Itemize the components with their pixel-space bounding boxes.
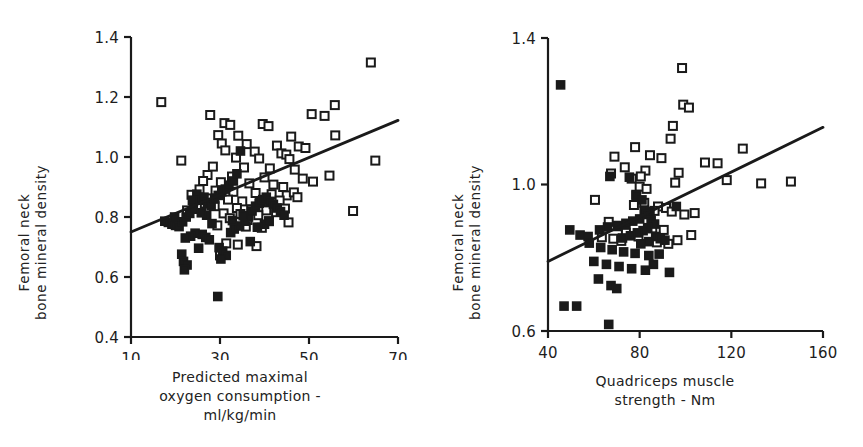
data-point-open	[221, 146, 229, 154]
y-tick-label: 0.4	[95, 329, 119, 347]
data-point-filled	[208, 220, 216, 228]
data-point-open	[609, 235, 617, 243]
y-tick-label: 0.6	[512, 323, 536, 341]
x-axis-label-left-line1: Predicted maximal	[90, 368, 390, 387]
data-point-filled	[573, 302, 581, 310]
data-point-filled	[665, 268, 673, 276]
x-ticks: 4080120160	[538, 331, 837, 360]
data-point-filled	[180, 266, 188, 274]
x-tick-label: 160	[808, 344, 837, 360]
data-point-open	[321, 112, 329, 120]
data-point-open	[687, 231, 695, 239]
x-axis-label-left-line2: oxygen consumption -	[90, 387, 390, 406]
data-point-open	[349, 207, 357, 215]
data-point-open	[308, 110, 316, 118]
data-point-open	[667, 135, 675, 143]
data-point-filled	[576, 231, 584, 239]
y-tick-label: 1.0	[95, 149, 119, 167]
data-point-filled	[195, 244, 203, 252]
y-tick-label: 0.8	[95, 209, 119, 227]
data-point-open	[269, 181, 277, 189]
data-point-open	[255, 155, 263, 163]
data-point-open	[265, 122, 273, 130]
data-point-filled	[638, 196, 646, 204]
x-tick-label: 30	[210, 350, 230, 360]
data-point-filled	[214, 293, 222, 301]
data-point-open	[309, 178, 317, 186]
data-point-filled	[253, 223, 261, 231]
data-point-filled	[618, 234, 626, 242]
data-point-filled	[228, 217, 236, 225]
data-point-filled	[628, 265, 636, 273]
data-point-filled	[566, 226, 574, 234]
data-point-filled	[613, 285, 621, 293]
data-point-filled	[605, 320, 613, 328]
data-point-filled	[557, 81, 565, 89]
data-point-filled	[597, 244, 605, 252]
x-axis-label-right-line1: Quadriceps muscle	[540, 372, 790, 391]
data-point-filled	[672, 202, 680, 210]
data-point-open	[631, 143, 639, 151]
data-point-filled	[602, 260, 610, 268]
data-point-filled	[233, 170, 241, 178]
x-axis-label-right: Quadriceps muscle strength - Nm	[540, 372, 790, 410]
x-tick-label: 50	[299, 350, 319, 360]
data-point-open	[214, 131, 222, 139]
data-point-open	[787, 178, 795, 186]
data-point-open	[669, 122, 677, 130]
data-point-open	[177, 157, 185, 165]
data-point-filled	[641, 266, 649, 274]
data-point-open	[673, 236, 681, 244]
x-tick-label: 40	[538, 344, 558, 360]
x-axis-label-right-line2: strength - Nm	[540, 391, 790, 410]
data-point-open	[714, 159, 722, 167]
data-point-open	[224, 196, 232, 204]
data-point-filled	[239, 212, 247, 220]
data-point-open	[660, 226, 668, 234]
x-axis-label-left: Predicted maximal oxygen consumption - m…	[90, 368, 390, 425]
data-point-open	[691, 209, 699, 217]
data-point-filled	[590, 257, 598, 265]
data-point-filled	[655, 250, 663, 258]
x-axis-label-left-line3: ml/kg/min	[90, 406, 390, 425]
plot-area-right: 0.61.01.44080120160	[430, 0, 863, 360]
data-point-open	[157, 98, 165, 106]
data-point-open	[685, 104, 693, 112]
data-point-open	[610, 153, 618, 161]
data-point-filled	[625, 173, 633, 181]
data-point-filled	[596, 226, 604, 234]
data-point-filled	[280, 211, 288, 219]
plot-area-left: 0.40.60.81.01.21.410305070	[0, 0, 440, 360]
y-tick-label: 1.0	[512, 176, 536, 194]
data-point-filled	[197, 209, 205, 217]
data-point-open	[630, 201, 638, 209]
data-point-filled	[649, 260, 657, 268]
data-point-filled	[645, 238, 653, 246]
figure-scatter-pair: Femoral neck bone mineral density 0.40.6…	[0, 0, 863, 447]
data-point-open	[371, 157, 379, 165]
data-point-filled	[246, 238, 254, 246]
data-point-filled	[217, 255, 225, 263]
data-point-filled	[181, 234, 189, 242]
data-point-filled	[631, 249, 639, 257]
data-point-filled	[637, 240, 645, 248]
data-point-open	[285, 155, 293, 163]
data-point-open	[367, 59, 375, 67]
data-point-filled	[188, 196, 196, 204]
x-ticks: 10305070	[121, 337, 408, 360]
data-point-filled	[645, 252, 653, 260]
y-ticks: 0.61.01.4	[512, 30, 548, 341]
data-point-open	[234, 241, 242, 249]
y-tick-label: 1.4	[95, 29, 119, 47]
data-point-open	[299, 175, 307, 183]
data-point-open	[293, 193, 301, 201]
chart-panel-left: Femoral neck bone mineral density 0.40.6…	[0, 0, 440, 447]
data-point-open	[209, 163, 217, 171]
data-point-open	[757, 179, 765, 187]
data-point-open	[637, 172, 645, 180]
data-point-filled	[661, 236, 669, 244]
data-point-open	[331, 101, 339, 109]
data-point-open	[678, 64, 686, 72]
x-tick-label: 120	[717, 344, 746, 360]
y-tick-label: 1.2	[95, 89, 119, 107]
